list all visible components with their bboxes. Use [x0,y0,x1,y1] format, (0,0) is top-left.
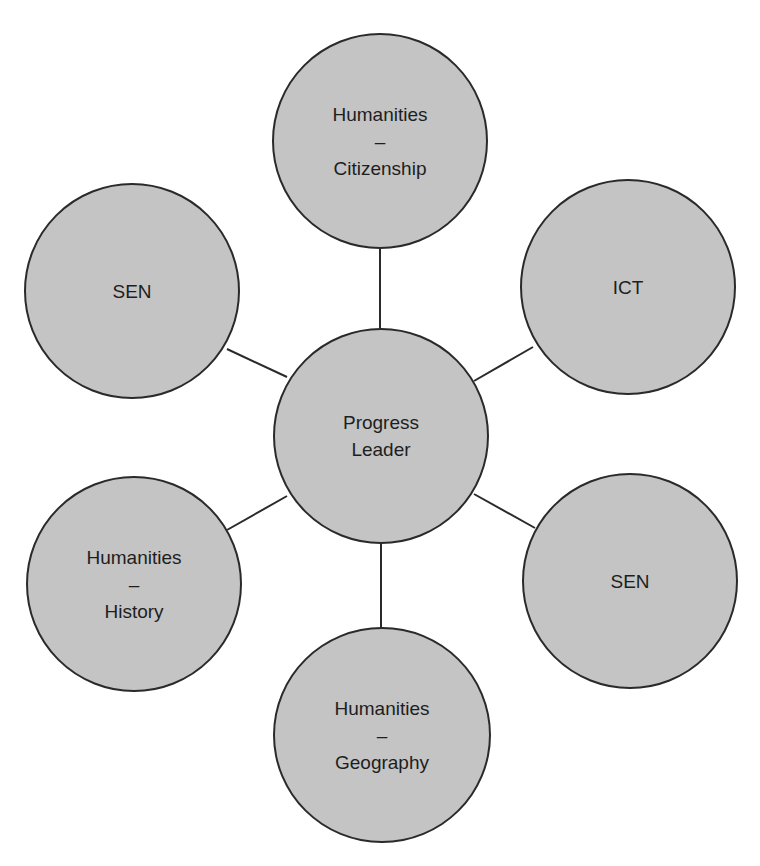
node-ict: ICT [520,179,736,395]
edge-to-history [227,496,287,530]
node-label-line: Humanities [332,101,427,128]
node-label-line: ICT [613,274,644,301]
node-label-line: Humanities [86,544,181,571]
node-label-line: – [377,722,388,749]
node-label-line: Geography [335,749,429,776]
node-sen-left: SEN [24,183,240,399]
node-humanities-geography: Humanities – Geography [273,627,491,843]
node-humanities-history: Humanities – History [26,476,242,692]
node-label-line: – [375,128,386,155]
node-progress-leader: Progress Leader [273,328,489,544]
node-humanities-citizenship: Humanities – Citizenship [272,33,488,249]
node-label-line: History [104,598,163,625]
node-label-line: SEN [112,278,151,305]
edge-to-ict [474,347,533,381]
node-label-line: – [129,571,140,598]
edge-to-sen-right [474,494,535,528]
node-label-line: SEN [610,568,649,595]
node-label-line: Progress [343,409,419,436]
node-label-line: Leader [351,436,410,463]
node-label-line: Citizenship [334,155,427,182]
node-sen-right: SEN [522,473,738,689]
node-label-line: Humanities [334,695,429,722]
edge-to-sen-left [227,349,287,377]
